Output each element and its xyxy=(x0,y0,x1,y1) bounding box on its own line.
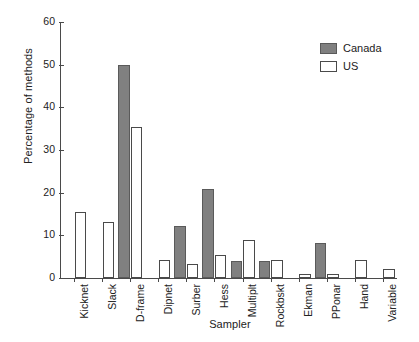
x-tick-mark xyxy=(186,278,187,282)
x-tick-mark xyxy=(355,278,356,282)
x-tick-mark xyxy=(102,278,103,282)
bar-us-rockbskt xyxy=(271,260,283,278)
chart-legend: Canada US xyxy=(320,40,382,76)
bar-canada-multiplt xyxy=(231,261,243,278)
x-label-hess: Hess xyxy=(219,284,230,308)
x-label-ekman: Ekman xyxy=(303,284,314,317)
x-tick-mark xyxy=(243,278,244,282)
x-label-d-frame: D-frame xyxy=(135,284,146,322)
y-tick-label: 60 xyxy=(43,15,55,28)
x-label-slack: Slack xyxy=(107,284,118,310)
bar-us-slack xyxy=(103,222,115,278)
x-axis-line xyxy=(60,278,397,279)
bar-canada-surber xyxy=(174,226,186,278)
bar-canada-d-frame xyxy=(118,65,130,278)
bar-us-hess xyxy=(215,255,227,278)
bar-us-d-frame xyxy=(131,127,143,278)
bar-us-pponar xyxy=(327,274,339,278)
x-tick-mark xyxy=(214,278,215,282)
bar-us-surber xyxy=(187,264,199,278)
x-tick-mark xyxy=(383,278,384,282)
bar-canada-pponar xyxy=(315,243,327,278)
y-tick-label: 20 xyxy=(43,186,55,199)
x-tick-mark xyxy=(130,278,131,282)
x-tick-mark xyxy=(271,278,272,282)
y-tick-label: 50 xyxy=(43,58,55,71)
legend-swatch-us-icon xyxy=(320,61,337,72)
x-label-variable: Variable xyxy=(387,284,398,322)
y-tick-label: 40 xyxy=(43,100,55,113)
x-tick-mark xyxy=(327,278,328,282)
x-label-kicknet: Kicknet xyxy=(79,284,90,318)
y-axis-title: Percentage of methods xyxy=(22,16,34,196)
x-tick-mark xyxy=(299,278,300,282)
legend-item-canada: Canada xyxy=(320,40,382,56)
bar-chart-figure: Percentage of methods 0102030405060 Kick… xyxy=(0,0,419,342)
bar-us-ekman xyxy=(299,274,311,278)
x-tick-mark xyxy=(158,278,159,282)
x-tick-mark xyxy=(74,278,75,282)
legend-swatch-canada-icon xyxy=(320,43,337,54)
bar-us-kicknet xyxy=(75,212,87,278)
x-label-multiplt: Multiplt xyxy=(247,284,258,317)
bar-us-hand xyxy=(355,260,367,278)
x-axis-title: Sampler xyxy=(60,318,400,330)
y-tick-label: 0 xyxy=(49,271,55,284)
legend-label-canada: Canada xyxy=(343,42,382,54)
x-label-pponar: PPonar xyxy=(331,284,342,319)
bar-us-dipnet xyxy=(159,260,171,278)
legend-item-us: US xyxy=(320,58,382,74)
bar-canada-hess xyxy=(202,189,214,278)
bar-canada-rockbskt xyxy=(259,261,271,278)
y-tick-mark xyxy=(59,278,64,279)
x-label-hand: Hand xyxy=(359,284,370,309)
y-tick-label: 10 xyxy=(43,228,55,241)
y-tick: 0 xyxy=(60,278,65,279)
legend-label-us: US xyxy=(343,60,358,72)
bar-us-multiplt xyxy=(243,240,255,278)
y-tick-label: 30 xyxy=(43,143,55,156)
bar-us-variable xyxy=(383,269,395,278)
x-label-surber: Surber xyxy=(191,284,202,316)
x-label-dipnet: Dipnet xyxy=(163,284,174,314)
